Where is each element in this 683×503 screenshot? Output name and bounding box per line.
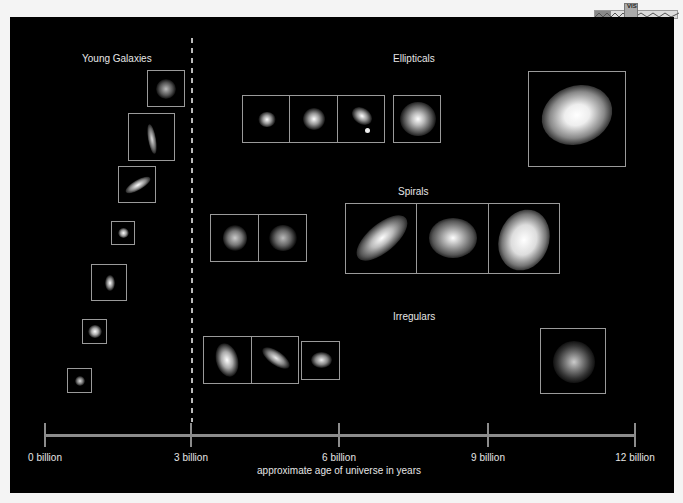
galaxy-image-irregular-3 (301, 341, 340, 380)
spirals-strip-large (345, 203, 560, 274)
galaxy-image-elliptical-1 (243, 96, 290, 142)
galaxy-image-spiral-4 (417, 204, 488, 273)
galaxy-image-elliptical-4 (393, 95, 441, 143)
galaxy-image-spiral-3 (346, 204, 417, 273)
galaxy-image-spiral-5 (489, 204, 559, 273)
galaxy-image-irregular-large (540, 328, 606, 394)
axis-label-6: 6 billion (322, 452, 356, 463)
galaxy-image-spiral-1 (211, 215, 259, 261)
irregulars-strip (203, 336, 299, 384)
axis-label-3: 3 billion (174, 452, 208, 463)
vis-label: VIS (627, 3, 637, 9)
time-axis (45, 434, 636, 437)
axis-label-0: 0 billion (28, 452, 62, 463)
axis-tick-6 (338, 423, 340, 447)
galaxy-image-elliptical-large (528, 71, 626, 167)
axis-tick-9 (487, 423, 489, 447)
axis-title: approximate age of universe in years (257, 465, 421, 476)
divider-3-billion (191, 38, 193, 422)
group-title-irregulars: Irregulars (393, 311, 435, 322)
galaxy-image-irregular-1 (204, 337, 252, 383)
axis-label-9: 9 billion (471, 452, 505, 463)
galaxy-image-elliptical-3 (338, 96, 384, 142)
galaxy-image-irregular-2 (252, 337, 299, 383)
galaxy-image-young-6 (82, 319, 107, 344)
group-title-ellipticals: Ellipticals (393, 53, 435, 64)
galaxy-image-young-7 (67, 368, 92, 393)
axis-label-12: 12 billion (615, 452, 654, 463)
group-title-spirals: Spirals (398, 186, 429, 197)
galaxy-image-young-1 (147, 70, 185, 107)
galaxy-image-young-4 (111, 221, 135, 245)
axis-tick-3 (190, 423, 192, 447)
galaxy-image-elliptical-2 (290, 96, 337, 142)
galaxy-image-young-2 (128, 113, 175, 161)
galaxy-image-young-5 (91, 264, 127, 301)
galaxy-image-spiral-2 (259, 215, 306, 261)
galaxy-image-young-3 (118, 166, 156, 203)
axis-tick-12 (634, 423, 636, 447)
ellipticals-strip (242, 95, 385, 143)
axis-tick-0 (44, 423, 46, 447)
group-title-young: Young Galaxies (82, 53, 152, 64)
spirals-strip-small (210, 214, 307, 262)
